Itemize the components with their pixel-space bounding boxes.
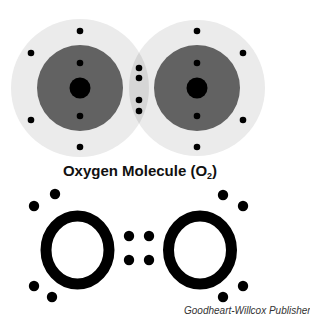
title-suffix: ) (212, 162, 217, 179)
diagram-title: Oxygen Molecule (O2) (0, 162, 280, 181)
nucleus-left (70, 78, 91, 99)
title-text: Oxygen Molecule (O (63, 162, 207, 179)
nucleus-right (187, 78, 208, 99)
publisher-credit: Goodheart-Willcox Publisher (184, 305, 310, 316)
lewis-oxygen-right (169, 216, 232, 284)
lewis-oxygen-left (46, 216, 109, 284)
lewis-shared-pairs (124, 231, 154, 265)
oxygen-molecule-diagram (0, 0, 310, 321)
